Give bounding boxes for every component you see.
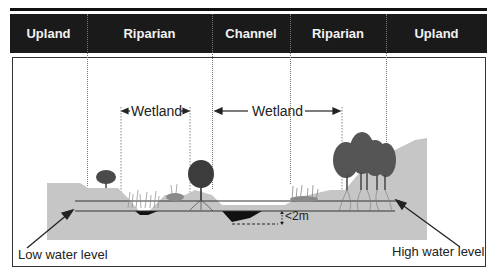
cross-section-illustration [0,0,499,275]
depth-label: <2m [285,209,309,223]
shrub-icon-left [166,184,184,201]
wetland-boundaries [121,107,342,205]
wetland-label-left: Wetland [131,103,182,119]
wetland-label-right: Wetland [252,103,303,119]
tree-icon-upland-left [96,170,116,188]
low-water-level-label: Low water level [18,247,108,262]
grass-base [290,196,318,202]
high-water-level-label: High water level [392,244,485,259]
